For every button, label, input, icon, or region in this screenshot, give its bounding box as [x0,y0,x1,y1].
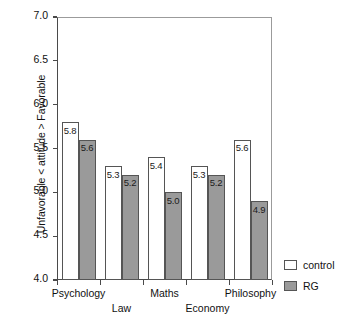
bar-control-economy: 5.3 [191,166,208,280]
bar-rg-law: 5.2 [122,175,139,280]
x-axis-label-philosophy: Philosophy [225,287,276,299]
x-tick-mark [57,280,58,285]
bar-value-label: 5.3 [106,170,121,180]
y-axis-title: Unfavorable < attitude > Favorable [35,29,47,279]
x-tick-mark [229,280,230,285]
legend: controlRG [284,256,343,298]
x-tick-mark [143,280,144,285]
bars-layer: 5.85.65.35.25.45.05.35.25.64.9 [57,17,272,280]
legend-item-rg: RG [284,277,343,294]
y-tick-label: 6.0 [33,97,48,109]
x-axis-label-psychology: Psychology [52,287,106,299]
bar-value-label: 5.0 [166,196,181,206]
bar-rg-psychology: 5.6 [79,140,96,280]
y-tick-label: 7.0 [33,9,48,21]
x-tick-mark [100,280,101,285]
bar-value-label: 5.4 [149,161,164,171]
bar-value-label: 5.6 [80,143,95,153]
x-axis-label-law: Law [112,302,131,314]
y-tick-label: 5.5 [33,141,48,153]
bar-rg-philosophy: 4.9 [251,201,268,280]
bar-value-label: 5.2 [123,178,138,188]
y-tick-label: 4.5 [33,228,48,240]
bar-value-label: 5.3 [192,170,207,180]
legend-label: control [303,259,335,271]
legend-label: RG [303,280,319,292]
x-tick-mark [186,280,187,285]
legend-swatch-control [284,260,297,270]
legend-swatch-rg [284,281,297,291]
x-tick-mark [272,280,273,285]
x-axis-label-economy: Economy [186,302,230,314]
bar-value-label: 5.6 [235,143,250,153]
bar-control-law: 5.3 [105,166,122,280]
bar-rg-maths: 5.0 [165,192,182,280]
bar-chart: Unfavorable < attitude > Favorable 7.06.… [0,0,343,336]
y-tick-label: 5.0 [33,184,48,196]
legend-item-control: control [284,256,343,273]
bar-control-philosophy: 5.6 [234,140,251,280]
bar-control-maths: 5.4 [148,157,165,280]
bar-value-label: 4.9 [252,205,267,215]
y-tick-label: 6.5 [33,53,48,65]
bar-value-label: 5.2 [209,178,224,188]
bar-value-label: 5.8 [63,126,78,136]
x-axis-label-maths: Maths [150,287,179,299]
bar-control-psychology: 5.8 [62,122,79,280]
bar-rg-economy: 5.2 [208,175,225,280]
y-tick-label: 4.0 [33,272,48,284]
